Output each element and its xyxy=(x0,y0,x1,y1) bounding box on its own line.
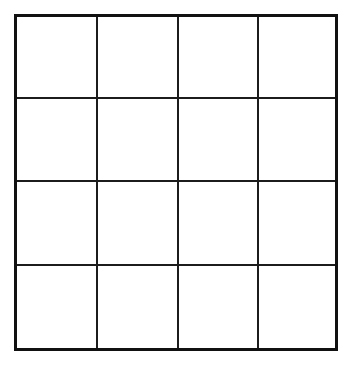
grid-cell[interactable] xyxy=(257,264,335,348)
page-canvas xyxy=(0,0,353,370)
grid-cell[interactable] xyxy=(177,180,257,264)
grid-cell[interactable] xyxy=(17,264,96,348)
grid-cell[interactable] xyxy=(96,264,177,348)
grid-cell[interactable] xyxy=(257,17,335,97)
grid-cell[interactable] xyxy=(96,17,177,97)
grid-cell[interactable] xyxy=(17,17,96,97)
grid-cell[interactable] xyxy=(17,97,96,180)
grid-cell[interactable] xyxy=(96,97,177,180)
grid-cell[interactable] xyxy=(257,97,335,180)
grid-figure[interactable] xyxy=(14,14,338,351)
grid-cell[interactable] xyxy=(257,180,335,264)
grid-cell[interactable] xyxy=(177,264,257,348)
grid-cell-layer xyxy=(17,17,335,348)
grid-cell[interactable] xyxy=(177,17,257,97)
grid-cell[interactable] xyxy=(177,97,257,180)
grid-cell[interactable] xyxy=(96,180,177,264)
grid-cell[interactable] xyxy=(17,180,96,264)
